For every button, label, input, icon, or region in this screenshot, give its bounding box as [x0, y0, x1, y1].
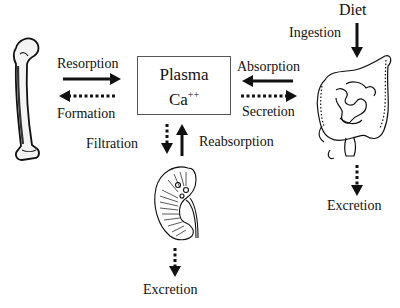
resorption-label: Resorption — [57, 56, 118, 72]
kidney-excretion-label: Excretion — [143, 282, 197, 298]
calcium-charge: ++ — [188, 89, 199, 100]
calcium-label: Ca++ — [138, 85, 230, 110]
absorption-label: Absorption — [237, 59, 300, 75]
ingestion-label: Ingestion — [289, 25, 341, 41]
diet-label: Diet — [339, 1, 367, 19]
plasma-label: Plasma — [138, 65, 230, 85]
intestine-icon — [317, 56, 390, 159]
filtration-label: Filtration — [86, 136, 138, 152]
secretion-label: Secretion — [242, 104, 295, 120]
kidney-icon — [155, 167, 198, 240]
calcium-symbol: Ca — [169, 90, 188, 109]
calcium-homeostasis-diagram: Plasma Ca++ Resorption Formation Diet In… — [0, 0, 400, 308]
bone-femur-icon — [14, 38, 39, 160]
formation-label: Formation — [57, 106, 115, 122]
plasma-calcium-box: Plasma Ca++ — [137, 56, 231, 115]
diagram-graphics — [0, 0, 400, 308]
reabsorption-label: Reabsorption — [199, 134, 274, 150]
gut-excretion-label: Excretion — [327, 198, 381, 214]
